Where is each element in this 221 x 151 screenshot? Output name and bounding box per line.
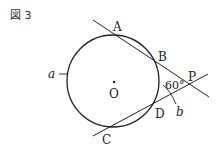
line-abp	[93, 20, 209, 97]
label-a-point: A	[112, 20, 122, 34]
circle-o	[67, 35, 159, 127]
label-o-point: O	[109, 87, 119, 101]
label-b-point: B	[158, 50, 167, 64]
label-p-point: P	[188, 70, 196, 84]
figure-title: 図 3	[10, 9, 32, 22]
center-point	[113, 81, 115, 83]
geometry-figure: 図 3 A B C D P O a b 60°	[0, 0, 221, 151]
label-d-point: D	[155, 107, 165, 121]
angle-label: 60°	[165, 79, 185, 92]
label-arc-b: b	[176, 105, 184, 119]
label-arc-a: a	[48, 67, 55, 81]
label-c-point: C	[102, 133, 111, 147]
